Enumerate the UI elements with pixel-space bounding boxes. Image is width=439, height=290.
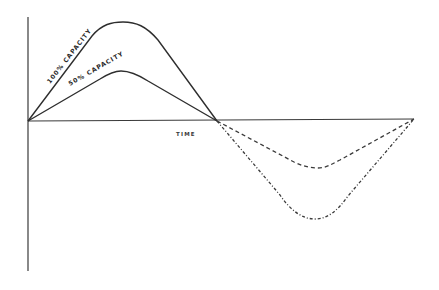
capacity-time-diagram: 100% CAPACITY 50% CAPACITY TIME: [0, 0, 439, 290]
curve-100-capacity-negative: [217, 119, 414, 219]
curve-50-capacity-positive: [28, 71, 217, 121]
curve-50-capacity-negative: [217, 119, 414, 168]
label-time-axis: TIME: [176, 131, 196, 137]
x-axis: [28, 119, 414, 121]
